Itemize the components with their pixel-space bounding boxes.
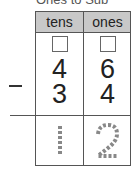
regroup-box-ones[interactable] (100, 36, 116, 52)
minus-sign (9, 85, 22, 87)
dotted-digit-2-icon (84, 120, 131, 162)
page-title: Ones to Sub (36, 0, 135, 7)
answer-tens[interactable] (36, 120, 83, 162)
header-ones: ones (84, 12, 131, 32)
header-tens: tens (36, 12, 83, 32)
sum-line (10, 115, 131, 116)
subtrahend-ones: 4 (84, 81, 131, 108)
regroup-box-tens[interactable] (52, 36, 68, 52)
place-value-table: tens ones 4 6 3 4 (35, 11, 131, 166)
dotted-digit-1-icon (36, 120, 83, 162)
answer-ones[interactable] (84, 120, 131, 162)
subtrahend-tens: 3 (36, 81, 83, 108)
